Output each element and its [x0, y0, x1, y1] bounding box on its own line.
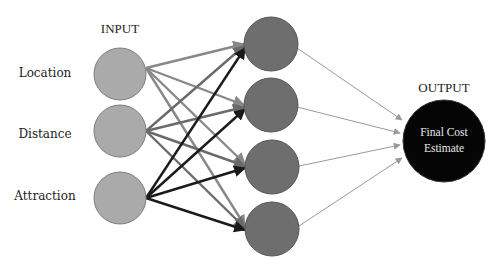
input-header: INPUT: [101, 21, 139, 36]
input-layer: [94, 48, 146, 224]
input-label-location: Location: [19, 66, 72, 80]
hidden-node-1: [244, 17, 298, 71]
hidden-node-2: [244, 78, 298, 132]
neural-network-diagram: INPUT OUTPUT Location Distance Attractio…: [0, 0, 503, 270]
hidden-layer: [244, 17, 299, 256]
input-label-distance: Distance: [18, 127, 71, 141]
edges-output: [297, 48, 402, 226]
output-header: OUTPUT: [418, 80, 469, 95]
output-node-label-line1: Final Cost: [420, 126, 468, 138]
input-label-attraction: Attraction: [13, 189, 76, 203]
output-node-label-line2: Estimate: [424, 142, 464, 154]
hidden-node-3: [245, 140, 299, 194]
output-layer: Final Cost Estimate: [403, 100, 485, 182]
input-node-attraction: [94, 172, 146, 224]
input-node-location: [94, 48, 146, 100]
output-node: [403, 100, 485, 182]
hidden-node-4: [245, 202, 299, 256]
input-node-distance: [94, 105, 146, 157]
